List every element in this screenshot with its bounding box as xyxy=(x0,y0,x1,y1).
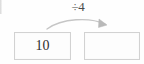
answer-box[interactable] xyxy=(84,32,140,60)
page-edge-artifact xyxy=(0,0,2,14)
answer-box-value xyxy=(85,33,139,59)
input-box-value: 10 xyxy=(15,33,70,59)
worksheet-diagram: ÷4 10 xyxy=(0,0,144,64)
input-box: 10 xyxy=(14,32,71,60)
operator-label: ÷4 xyxy=(62,0,94,14)
